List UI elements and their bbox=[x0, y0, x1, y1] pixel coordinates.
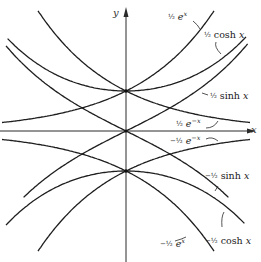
label-neg-half-sinh: −½ sinh x bbox=[205, 171, 249, 181]
leader-half-exp-negx bbox=[206, 121, 218, 128]
x-axis-label: x bbox=[251, 124, 257, 135]
leader-half-exp-x bbox=[193, 21, 200, 29]
curve-neg-half-exp-x bbox=[2, 140, 214, 252]
label-half-exp-x: ½ ex bbox=[168, 11, 187, 22]
y-axis-label: y bbox=[113, 7, 119, 18]
label-half-cosh: ½ cosh x bbox=[204, 30, 244, 40]
leader-half-sinh bbox=[202, 93, 208, 95]
leader-half-cosh bbox=[216, 42, 221, 54]
label-half-exp-negx: ½ e−x bbox=[176, 118, 201, 129]
point-0-half bbox=[124, 89, 128, 93]
y-axis-arrow-icon bbox=[124, 7, 129, 17]
point-origin bbox=[124, 129, 127, 132]
label-half-sinh: ½ sinh x bbox=[210, 91, 248, 101]
label-neg-half-exp-negx: −½ e−x bbox=[170, 135, 200, 146]
curve-half-exp-negx bbox=[38, 11, 250, 123]
label-neg-half-cosh: −½ cosh x bbox=[205, 236, 251, 246]
point-0-neg-half bbox=[124, 169, 128, 173]
label-neg-half-exp-x: −½ ex bbox=[160, 238, 185, 249]
curve-half-exp-x bbox=[2, 11, 214, 123]
leader-neg-half-cosh bbox=[222, 212, 224, 227]
curve-half-cosh bbox=[8, 37, 246, 91]
leader-neg-half-exp-negx bbox=[206, 138, 218, 141]
